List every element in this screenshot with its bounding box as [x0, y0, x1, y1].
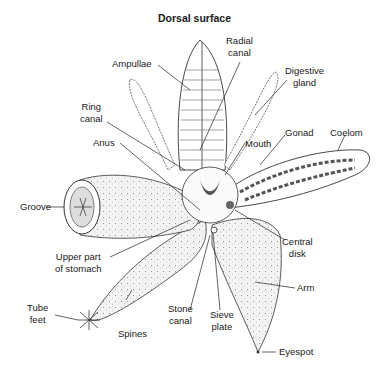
label-anus: Anus — [93, 137, 115, 149]
arm-left-cut — [64, 175, 202, 238]
eyespot-dot — [257, 351, 260, 354]
label-radial-canal: Radial canal — [226, 35, 253, 59]
label-ring-canal: Ring canal — [80, 101, 103, 125]
sieve-plate-shape — [211, 227, 217, 233]
arm-top-dissected — [178, 40, 227, 170]
label-digestive-gland: Digestive gland — [285, 65, 324, 89]
arm-right-dissected — [228, 150, 370, 208]
label-eyespot: Eyespot — [279, 346, 313, 358]
label-stone-canal: Stone canal — [168, 303, 193, 327]
label-spines: Spines — [118, 328, 147, 340]
label-tube-feet: Tube feet — [27, 302, 48, 326]
label-groove: Groove — [20, 201, 51, 213]
arm-lower-right — [212, 218, 281, 353]
tube-feet-cluster — [78, 310, 100, 330]
digestive-gland-right — [224, 72, 278, 170]
label-sieve-plate: Sieve plate — [210, 309, 234, 333]
starfish-anatomy-illustration — [0, 0, 389, 379]
label-arm: Arm — [297, 282, 314, 294]
label-ampullae: Ampullae — [112, 58, 152, 70]
label-central-disk: Central disk — [282, 236, 313, 260]
label-upper-stomach: Upper part of stomach — [55, 251, 101, 275]
label-coelom: Coelom — [330, 127, 363, 139]
label-gonad: Gonad — [285, 127, 314, 139]
label-mouth: Mouth — [245, 138, 271, 150]
